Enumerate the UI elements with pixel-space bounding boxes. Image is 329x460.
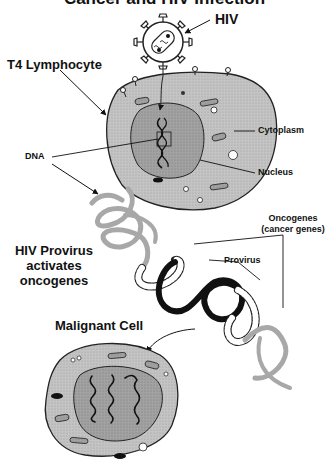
label-dna: DNA bbox=[25, 151, 45, 161]
hiv-virus-icon bbox=[134, 14, 192, 69]
label-provirus: Provirus bbox=[224, 255, 261, 265]
label-cytoplasm: Cytoplasm bbox=[258, 125, 304, 135]
label-malignant-cell: Malignant Cell bbox=[55, 318, 143, 333]
label-hiv-provirus-line3: oncogenes bbox=[6, 273, 102, 288]
label-oncogenes-line1: Oncogenes bbox=[260, 213, 326, 224]
label-hiv-provirus-line1: HIV Provirus bbox=[6, 243, 102, 258]
label-oncogenes-line2: (cancer genes) bbox=[260, 224, 326, 235]
malignant-cell bbox=[45, 344, 178, 459]
label-oncogenes: Oncogenes (cancer genes) bbox=[260, 213, 326, 235]
label-hiv: HIV bbox=[215, 11, 238, 27]
diagram-canvas: Cancer and HIV Infection bbox=[0, 0, 329, 460]
label-hiv-provirus-activates-oncogenes: HIV Provirus activates oncogenes bbox=[6, 243, 102, 288]
label-hiv-provirus-line2: activates bbox=[6, 258, 102, 273]
label-nucleus: Nucleus bbox=[258, 167, 293, 177]
t4-lymphocyte-cell bbox=[107, 66, 277, 210]
label-t4-lymphocyte: T4 Lymphocyte bbox=[7, 57, 102, 72]
